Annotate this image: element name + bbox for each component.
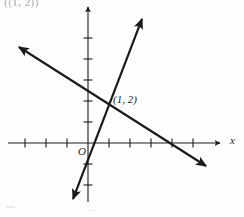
intersection-point-label: (1, 2) bbox=[113, 94, 137, 105]
origin-label: O bbox=[78, 146, 86, 157]
x-axis bbox=[8, 139, 220, 148]
scan-speck bbox=[6, 206, 15, 208]
header-text-fragment: ((1, 2)) bbox=[4, 0, 39, 8]
coordinate-plane-svg bbox=[0, 0, 244, 217]
y-axis bbox=[84, 7, 93, 202]
graph-figure: ((1, 2)) (1, 2) O x bbox=[0, 0, 244, 217]
shallow-line bbox=[19, 47, 206, 166]
steep-line bbox=[73, 19, 142, 199]
x-axis-label: x bbox=[230, 135, 235, 146]
scan-speck bbox=[90, 210, 97, 211]
